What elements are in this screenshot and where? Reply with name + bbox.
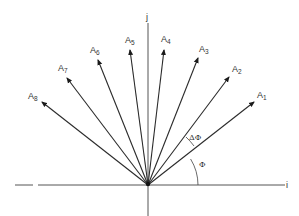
vector-fan-diagram: i j A1A2A3A4A5A6A7A8 Φ ΔΦ <box>0 0 299 216</box>
vector-arrow <box>98 60 148 185</box>
vector-label: A2 <box>232 64 242 75</box>
phi-label: Φ <box>199 160 206 169</box>
i-axis: i <box>15 180 288 190</box>
vector-label: A4 <box>161 34 171 45</box>
vector-label: A7 <box>58 63 68 74</box>
vector-label: A3 <box>199 44 209 55</box>
vector-label: A8 <box>28 91 38 102</box>
vector-label: A1 <box>257 90 267 101</box>
vector-a6: A6 <box>90 45 148 185</box>
origin-point <box>146 182 150 186</box>
delta-phi-label: ΔΦ <box>189 133 202 142</box>
vector-a1: A1 <box>148 90 267 185</box>
j-axis-label: j <box>145 12 148 22</box>
vector-a2: A2 <box>148 64 242 185</box>
vector-label: A5 <box>125 35 135 46</box>
vector-a4: A4 <box>148 34 171 185</box>
vector-a5: A5 <box>125 35 148 185</box>
phi-arc <box>191 159 198 185</box>
i-axis-label: i <box>286 180 288 190</box>
angle-annotations: Φ ΔΦ <box>186 133 206 185</box>
vector-label: A6 <box>90 45 100 56</box>
